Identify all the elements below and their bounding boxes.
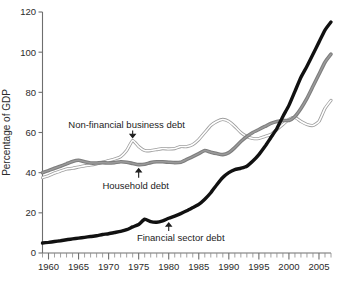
chart-container: 0204060801001201960196519701975198019851… (0, 0, 338, 283)
y-tick-label-60: 60 (25, 127, 36, 138)
data-series (43, 22, 332, 243)
y-tick-label-40: 40 (25, 167, 36, 178)
y-tick-label-100: 100 (20, 47, 36, 58)
series-financial-sector-debt (43, 22, 332, 243)
x-tick-label-2005: 2005 (308, 261, 329, 272)
arrow-head-non-financial-business-debt (130, 134, 135, 137)
axes (43, 12, 332, 253)
annotation-arrow-household-debt (136, 169, 141, 178)
x-tick-label-1990: 1990 (218, 261, 239, 272)
x-tick-label-1995: 1995 (248, 261, 269, 272)
series-non-financial-business-debt-fill (43, 100, 332, 177)
arrow-head-financial-sector-debt (166, 223, 171, 226)
y-tick-label-20: 20 (25, 207, 36, 218)
y-axis-title: Percentage of GDP (1, 89, 12, 176)
x-tick-label-1965: 1965 (68, 261, 89, 272)
y-tick-label-80: 80 (25, 87, 36, 98)
annotation-label-financial-sector-debt: Financial sector debt (137, 232, 225, 243)
annotation-label-household-debt: Household debt (102, 180, 169, 191)
y-tick-label-0: 0 (31, 247, 36, 258)
x-tick-label-2000: 2000 (278, 261, 299, 272)
arrow-head-household-debt (136, 169, 141, 172)
axis-ticks (39, 12, 332, 260)
axis-titles: Percentage of GDP (1, 89, 12, 176)
annotation-label-non-financial-business-debt: Non-financial business debt (68, 119, 185, 130)
annotation-arrow-financial-sector-debt (166, 223, 171, 231)
x-tick-label-1975: 1975 (128, 261, 149, 272)
series-household-debt-outline (43, 54, 332, 172)
line-chart: 0204060801001201960196519701975198019851… (0, 0, 338, 283)
x-tick-label-1980: 1980 (158, 261, 179, 272)
series-household-debt-fill (43, 54, 332, 172)
annotation-arrow-non-financial-business-debt (130, 130, 135, 137)
x-tick-label-1985: 1985 (188, 261, 209, 272)
x-tick-label-1970: 1970 (98, 261, 119, 272)
x-tick-label-1960: 1960 (38, 261, 59, 272)
y-tick-label-120: 120 (20, 6, 36, 17)
